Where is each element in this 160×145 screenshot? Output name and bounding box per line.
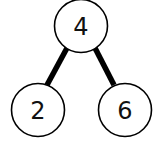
edge-root-left — [47, 48, 67, 85]
edge-root-right — [95, 48, 114, 85]
tree-node-right: 6 — [99, 84, 152, 137]
node-label: 6 — [117, 97, 132, 125]
node-label: 2 — [30, 97, 45, 125]
tree-node-left: 2 — [12, 84, 65, 137]
tree-node-root: 4 — [55, 0, 108, 53]
binary-tree-diagram: 4 2 6 — [0, 0, 160, 145]
node-label: 4 — [73, 13, 88, 41]
